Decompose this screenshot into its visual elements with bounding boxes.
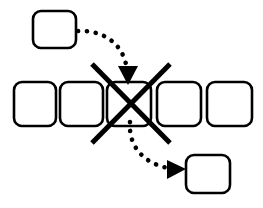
row-box-1[interactable] (14, 82, 56, 126)
row-box-2[interactable] (60, 82, 103, 126)
diagram-svg (0, 0, 263, 208)
source-box[interactable] (33, 11, 76, 48)
diagram-canvas (0, 0, 263, 208)
row-box-4[interactable] (157, 82, 201, 126)
destination-box[interactable] (186, 155, 230, 193)
row-box-5[interactable] (207, 82, 252, 126)
